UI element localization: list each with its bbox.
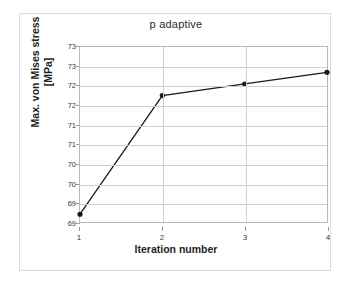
vertical-gridline: [163, 47, 164, 222]
horizontal-gridline: [80, 106, 327, 107]
x-axis-tick-label: 2: [152, 233, 172, 242]
y-axis-tick-label: 69: [54, 219, 76, 228]
y-axis-tick-label: 71: [54, 140, 76, 149]
horizontal-gridline: [80, 185, 327, 186]
data-series-line: [80, 47, 327, 222]
plot-area: [79, 46, 328, 223]
horizontal-gridline: [80, 86, 327, 87]
x-axis-title: Iteration number: [0, 243, 352, 255]
x-axis-tick-label: 3: [235, 233, 255, 242]
y-axis-tick-label: 72: [54, 81, 76, 90]
y-axis-title-line-1: Max. von Mises stress: [29, 17, 42, 128]
horizontal-gridline: [80, 204, 327, 205]
x-axis-tick-labels: 1234: [79, 227, 328, 241]
series-polyline: [80, 72, 327, 214]
y-axis-tick-label: 70: [54, 179, 76, 188]
horizontal-gridline: [80, 165, 327, 166]
x-axis-tick-mark: [162, 227, 163, 231]
y-axis-tick-labels: 69697070717172727373: [52, 46, 76, 223]
chart-figure: p adaptive Max. von Mises stress [MPa] 6…: [0, 0, 352, 284]
y-axis-tick-label: 72: [54, 101, 76, 110]
y-axis-tick-label: 71: [54, 120, 76, 129]
horizontal-gridline: [80, 67, 327, 68]
y-axis-tick-label: 70: [54, 160, 76, 169]
vertical-gridline: [246, 47, 247, 222]
x-axis-tick-mark: [79, 227, 80, 231]
y-axis-tick-mark: [76, 223, 80, 224]
x-axis-tick-mark: [328, 227, 329, 231]
horizontal-gridline: [80, 126, 327, 127]
x-axis-tick-mark: [245, 227, 246, 231]
horizontal-gridline: [80, 145, 327, 146]
y-axis-tick-label: 73: [54, 61, 76, 70]
y-axis-tick-label: 69: [54, 199, 76, 208]
x-axis-tick-label: 1: [69, 233, 89, 242]
data-point-marker: [77, 212, 82, 217]
x-axis-tick-label: 4: [318, 233, 338, 242]
y-axis-tick-label: 73: [54, 42, 76, 51]
data-point-marker: [324, 70, 329, 75]
